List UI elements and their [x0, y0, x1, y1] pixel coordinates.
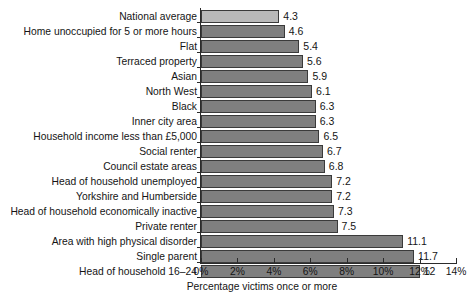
category-label: Single parent [136, 250, 197, 263]
x-axis-line [200, 263, 457, 264]
bar-value-label: 5.4 [299, 40, 318, 53]
bar [201, 85, 312, 98]
category-label: Asian [171, 70, 197, 83]
bar [201, 175, 332, 188]
category-label: Inner city area [132, 115, 197, 128]
x-axis-tick-label: 14% [446, 265, 467, 278]
bar-row: Household income less than £5,0006.5 [0, 130, 470, 145]
bar [201, 100, 316, 113]
category-label: Council estate areas [103, 160, 197, 173]
bar-value-label: 7.3 [334, 205, 353, 218]
bar [201, 250, 414, 263]
bar-row: Asian5.9 [0, 70, 470, 85]
category-label: Private renter [135, 220, 197, 233]
bar-row: Inner city area6.3 [0, 115, 470, 130]
x-axis-tick-label: 0% [194, 265, 209, 278]
x-axis-tick-label: 10% [373, 265, 394, 278]
bar-rows: National average4.3Home unoccupied for 5… [0, 10, 470, 280]
x-axis-tick [456, 258, 457, 263]
bar-value-label: 6.3 [316, 115, 335, 128]
bar-row: Flat5.4 [0, 40, 470, 55]
x-axis-tick-label: 2% [230, 265, 245, 278]
bar-value-label: 5.6 [303, 55, 322, 68]
bar [201, 40, 299, 53]
category-label: Household income less than £5,000 [33, 130, 197, 143]
bar-row: Social renter6.7 [0, 145, 470, 160]
bar-row: National average4.3 [0, 10, 470, 25]
x-axis-tick-label: 4% [266, 265, 281, 278]
category-label: National average [119, 10, 197, 23]
bar-value-label: 7.2 [332, 175, 351, 188]
bar [201, 55, 303, 68]
bar [201, 10, 279, 23]
x-axis-title-text: Percentage victims once or more [187, 281, 338, 292]
x-axis-tick [420, 258, 421, 263]
x-axis-tick [201, 258, 202, 263]
bar-value-label: 6.7 [323, 145, 342, 158]
bar [201, 190, 332, 203]
category-label: Black [172, 100, 197, 113]
bar [201, 205, 334, 218]
bar-value-label: 7.2 [332, 190, 351, 203]
bar-row: Terraced property5.6 [0, 55, 470, 70]
x-axis-tick-label: 12% [409, 265, 430, 278]
bar-row: North West6.1 [0, 85, 470, 100]
bar-row: Yorkshire and Humberside7.2 [0, 190, 470, 205]
category-label: Flat [180, 40, 197, 53]
category-label: Terraced property [116, 55, 197, 68]
bar-value-label: 4.3 [279, 10, 298, 23]
x-axis-tick-label: 8% [339, 265, 354, 278]
bar [201, 25, 285, 38]
x-axis-tick [347, 258, 348, 263]
bar-value-label: 11.1 [403, 235, 427, 248]
category-label: North West [146, 85, 197, 98]
x-axis-title: Percentage victims once or more [0, 281, 470, 292]
bar-value-label: 6.5 [319, 130, 338, 143]
bar [201, 160, 325, 173]
y-axis-line [200, 8, 201, 263]
bar-value-label: 6.8 [325, 160, 344, 173]
category-label: Home unoccupied for 5 or more hours [24, 25, 197, 38]
bar-row: Council estate areas6.8 [0, 160, 470, 175]
bar-value-label: 6.3 [316, 100, 335, 113]
bar [201, 235, 403, 248]
bar [201, 145, 323, 158]
bar-row: Private renter7.5 [0, 220, 470, 235]
category-label: Yorkshire and Humberside [76, 190, 197, 203]
bar-value-label: 11.7 [414, 250, 438, 263]
category-label: Social renter [139, 145, 197, 158]
category-label: Head of household economically inactive [10, 205, 197, 218]
bar [201, 70, 308, 83]
bar-row: Area with high physical disorder11.1 [0, 235, 470, 250]
category-label: Head of household unemployed [52, 175, 197, 188]
x-axis-tick [383, 258, 384, 263]
category-label: Area with high physical disorder [52, 235, 197, 248]
category-label: Head of household 16–24 [79, 265, 197, 278]
bar [201, 130, 319, 143]
bar-value-label: 7.5 [338, 220, 357, 233]
bar-value-label: 5.9 [308, 70, 327, 83]
x-axis-tick [237, 258, 238, 263]
x-axis-tick [310, 258, 311, 263]
bar [201, 220, 338, 233]
bar-row: Home unoccupied for 5 or more hours4.6 [0, 25, 470, 40]
bar [201, 115, 316, 128]
bar-row: Head of household unemployed7.2 [0, 175, 470, 190]
bar-row: Black6.3 [0, 100, 470, 115]
x-axis-tick [274, 258, 275, 263]
bar-chart: National average4.3Home unoccupied for 5… [0, 0, 470, 296]
bar-value-label: 4.6 [285, 25, 304, 38]
x-axis-tick-label: 6% [303, 265, 318, 278]
bar-value-label: 6.1 [312, 85, 331, 98]
bar-row: Head of household economically inactive7… [0, 205, 470, 220]
